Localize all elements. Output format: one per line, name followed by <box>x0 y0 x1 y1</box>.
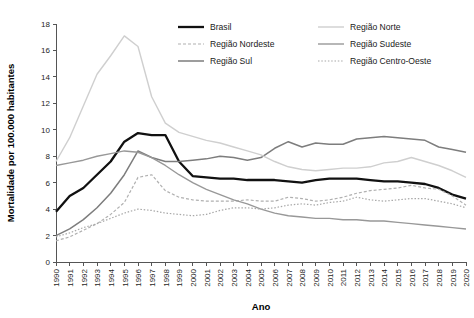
x-tick-label: 1993 <box>93 268 102 286</box>
x-tick-label: 2009 <box>312 268 321 286</box>
x-tick-label: 1999 <box>175 268 184 286</box>
x-tick-label: 2008 <box>298 268 307 286</box>
mortality-line-chart: 024681012141618 199019911992199319941995… <box>0 0 474 318</box>
y-tick-label: 10 <box>41 126 50 135</box>
x-tick-label: 2019 <box>449 268 458 286</box>
x-tick-label: 2011 <box>339 268 348 286</box>
y-tick-label: 8 <box>46 152 51 161</box>
x-tick-label: 2002 <box>216 268 225 286</box>
x-tick-label: 2007 <box>285 268 294 286</box>
x-tick-label: 2001 <box>203 268 212 286</box>
y-tick-label: 14 <box>41 73 50 82</box>
x-tick-label: 2018 <box>435 268 444 286</box>
x-tick-label: 2005 <box>257 268 266 286</box>
x-tick-label: 2013 <box>367 268 376 286</box>
x-axis: 1990199119921993199419951996199719981999… <box>52 262 471 287</box>
series-line <box>56 133 466 212</box>
x-tick-label: 2010 <box>326 268 335 286</box>
x-tick-label: 1990 <box>52 268 61 286</box>
y-axis: 024681012141618 <box>41 20 56 267</box>
y-tick-label: 6 <box>46 179 51 188</box>
y-tick-label: 16 <box>41 46 50 55</box>
y-tick-label: 2 <box>46 232 51 241</box>
x-tick-label: 1995 <box>121 268 130 286</box>
legend-label: Região Nordeste <box>210 39 275 49</box>
y-tick-label: 18 <box>41 20 50 29</box>
x-tick-label: 2017 <box>421 268 430 286</box>
series-lines <box>56 36 466 241</box>
x-tick-label: 2012 <box>353 268 362 286</box>
x-tick-label: 1991 <box>66 268 75 286</box>
x-tick-label: 2004 <box>244 268 253 286</box>
x-tick-label: 2020 <box>462 268 471 286</box>
legend-label: Brasil <box>210 22 232 32</box>
x-tick-label: 2014 <box>380 268 389 286</box>
legend-label: Região Sudeste <box>350 39 411 49</box>
x-tick-label: 1996 <box>134 268 143 286</box>
x-tick-label: 2000 <box>189 268 198 286</box>
y-tick-label: 0 <box>46 258 51 267</box>
x-tick-label: 2016 <box>408 268 417 286</box>
legend-label: Região Centro-Oeste <box>350 56 431 66</box>
y-tick-label: 12 <box>41 99 50 108</box>
x-tick-label: 2003 <box>230 268 239 286</box>
chart-legend: BrasilRegião NordesteRegião SulRegião No… <box>178 22 431 66</box>
x-axis-title: Ano <box>252 301 271 312</box>
x-tick-label: 1992 <box>80 268 89 286</box>
x-tick-label: 2015 <box>394 268 403 286</box>
x-tick-label: 1994 <box>107 268 116 286</box>
series-line <box>56 197 466 237</box>
legend-label: Região Sul <box>210 56 252 66</box>
x-tick-label: 1998 <box>162 268 171 286</box>
series-line <box>56 151 466 229</box>
chart-canvas: 024681012141618 199019911992199319941995… <box>0 0 474 318</box>
y-axis-title: Mortalidade por 100.000 habitantes <box>5 64 16 222</box>
legend-label: Região Norte <box>350 22 401 32</box>
x-tick-label: 1997 <box>148 268 157 286</box>
x-tick-label: 2006 <box>271 268 280 286</box>
y-tick-label: 4 <box>46 205 51 214</box>
